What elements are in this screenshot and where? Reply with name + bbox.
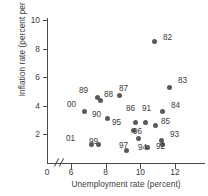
- data-point-label: 90: [92, 110, 101, 119]
- data-point: [117, 93, 122, 98]
- data-point-label: 95: [112, 118, 121, 127]
- y-tick-label: 8: [14, 44, 40, 54]
- data-point-label: 82: [163, 33, 172, 42]
- data-point: [98, 98, 103, 103]
- data-point-label: 88: [104, 90, 113, 99]
- scatter-chart: Inflation rate (percent per year) Unempl…: [0, 0, 208, 196]
- data-point: [136, 136, 141, 141]
- data-point-label: 00: [67, 100, 76, 109]
- data-point-label: 83: [178, 76, 187, 85]
- data-point: [160, 109, 165, 114]
- x-origin-label: 0: [34, 167, 60, 177]
- y-tick-mark: [43, 106, 48, 107]
- data-point: [167, 85, 172, 90]
- data-point-label: 92: [156, 142, 165, 151]
- y-tick-label: 2: [14, 129, 40, 139]
- y-tick-label: 6: [14, 72, 40, 82]
- data-point-label: 85: [161, 117, 170, 126]
- y-tick-mark: [43, 77, 48, 78]
- data-point-label: 86: [126, 104, 135, 113]
- x-tick-label: 12: [162, 167, 188, 177]
- data-point: [105, 116, 110, 121]
- data-point-label: 96: [133, 127, 142, 136]
- data-point-label: 89: [79, 86, 88, 95]
- y-tick-mark: [43, 134, 48, 135]
- x-tick-label: 6: [58, 167, 84, 177]
- y-axis-line: [47, 18, 48, 164]
- data-point: [82, 109, 87, 114]
- x-tick-label: 10: [127, 167, 153, 177]
- data-point-label: 01: [66, 134, 75, 143]
- data-point-label: 97: [119, 141, 128, 150]
- data-point-label: 87: [119, 84, 128, 93]
- data-point: [133, 120, 138, 125]
- data-point-label: 94: [138, 143, 147, 152]
- data-point: [153, 123, 158, 128]
- data-point: [152, 39, 157, 44]
- y-tick-mark: [43, 49, 48, 50]
- y-tick-mark: [43, 20, 48, 21]
- data-point-label: 93: [170, 130, 179, 139]
- y-tick-label: 10: [14, 15, 40, 25]
- data-point-label: 84: [171, 101, 180, 110]
- data-point-label: 91: [142, 104, 151, 113]
- x-axis-label: Unemployment rate (percent): [44, 180, 208, 189]
- data-point: [89, 142, 94, 147]
- y-tick-label: 4: [14, 101, 40, 111]
- data-point: [143, 120, 148, 125]
- x-tick-label: 8: [93, 167, 119, 177]
